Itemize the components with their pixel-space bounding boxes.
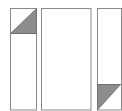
middle-panel — [42, 9, 92, 111]
left-panel — [11, 9, 37, 111]
right-panel — [98, 9, 122, 111]
middle-panel-frame — [42, 9, 92, 111]
panel-diagram — [0, 0, 122, 111]
